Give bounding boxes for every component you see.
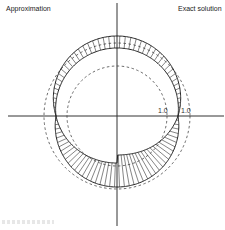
inner-tick-label: 1.0 — [158, 107, 168, 114]
caption-faint — [2, 220, 54, 224]
outer-tick-label: 1.0 — [181, 107, 191, 114]
polar-diagram: 1.0 1.0 — [0, 0, 225, 230]
